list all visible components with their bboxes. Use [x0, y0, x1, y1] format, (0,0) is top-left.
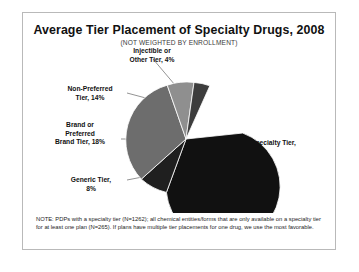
- chart-footnote: NOTE: PDPs with a specialty tier (N=1262…: [36, 215, 322, 231]
- pie-label-injectible: Injectible or Other Tier, 4%: [109, 47, 195, 64]
- pie-label-specialty-line1: Specialty Tier,: [251, 139, 333, 148]
- pie-label-brand-line2: Preferred: [37, 130, 123, 139]
- chart-title: Average Tier Placement of Specialty Drug…: [23, 23, 335, 37]
- page-background: Average Tier Placement of Specialty Drug…: [0, 0, 359, 272]
- chart-subtitle: (NOT WEIGHTED BY ENROLLMENT): [23, 39, 335, 46]
- chart-frame: Average Tier Placement of Specialty Drug…: [22, 12, 336, 250]
- pie-label-specialty-line2: 56%: [251, 148, 333, 157]
- pie-label-nonpreferred-line1: Non-Preferred: [49, 85, 131, 94]
- pie-label-injectible-line2: Other Tier, 4%: [109, 56, 195, 65]
- pie-label-nonpreferred: Non-Preferred Tier, 14%: [49, 85, 131, 102]
- pie-label-brand-line1: Brand or: [37, 121, 123, 130]
- pie-label-brand: Brand or Preferred Brand Tier, 18%: [37, 121, 123, 147]
- pie-label-generic-line2: 8%: [51, 185, 131, 194]
- pie-label-injectible-line1: Injectible or: [109, 47, 195, 56]
- pie-label-nonpreferred-line2: Tier, 14%: [49, 94, 131, 103]
- pie-chart-plot-area: Injectible or Other Tier, 4% Non-Preferr…: [23, 47, 335, 213]
- pie-label-brand-line3: Brand Tier, 18%: [37, 138, 123, 147]
- pie-label-generic-line1: Generic Tier,: [51, 176, 131, 185]
- pie-label-specialty: Specialty Tier, 56%: [251, 139, 333, 156]
- pie-label-generic: Generic Tier, 8%: [51, 176, 131, 193]
